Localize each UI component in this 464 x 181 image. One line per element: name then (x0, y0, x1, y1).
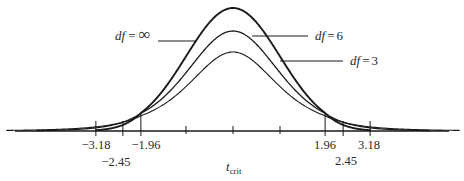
crit-label-neg-3-18: −3.18 (82, 138, 111, 152)
curve-df-3 (6, 52, 459, 130)
curve-df-infinity (95, 8, 371, 130)
crit-label-1-96: 1.96 (314, 138, 336, 152)
minor-ticks (186, 126, 280, 134)
curve-df-6 (36, 31, 430, 131)
crit-label-3-18: 3.18 (358, 138, 380, 152)
crit-label-2-45: 2.45 (335, 154, 357, 168)
label-df-6: df=6 (315, 28, 343, 43)
label-df-infinity: df=∞ (115, 25, 151, 44)
crit-label-neg-1-96: −1.96 (132, 138, 161, 152)
label-df-3: df=3 (350, 53, 378, 68)
crit-label-neg-2-45: −2.45 (102, 155, 131, 169)
x-axis-label: tcrit (226, 159, 242, 176)
t-distribution-chart: −3.18 −2.45 −1.96 1.96 2.45 3.18 tcrit d… (0, 0, 464, 181)
